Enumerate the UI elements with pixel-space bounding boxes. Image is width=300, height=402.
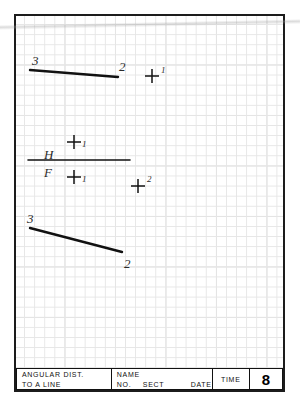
top-view-point-mark-1 (145, 69, 159, 83)
drawing-ink-layer (14, 14, 285, 392)
name-field-label: NAME (117, 370, 212, 379)
projection-point-label-2-2: 2 (147, 175, 152, 184)
title-block-time-cell: TIME (212, 369, 249, 389)
title-block: ANGULAR DIST. TO A LINE NAME NO. SECT DA… (16, 368, 283, 390)
time-field-label: TIME (221, 375, 241, 384)
top-view-point-mark-label-1-0: 1 (161, 66, 166, 75)
worksheet-title-line2: TO A LINE (22, 380, 111, 389)
fold-line-label-f: F (44, 166, 52, 179)
front-view-line-3-2 (30, 228, 122, 252)
student-info-row: NO. SECT DATE (117, 380, 212, 389)
sheet-number: 8 (262, 371, 270, 388)
section-field-label: SECT (143, 380, 191, 389)
projection-point-label-1-0: 1 (82, 140, 87, 149)
projection-point-mark-1-1 (67, 170, 81, 184)
title-block-name-cell: NAME NO. SECT DATE (111, 369, 212, 389)
top-view-line-3-2 (30, 70, 118, 77)
worksheet-title-line1: ANGULAR DIST. (22, 370, 111, 379)
title-block-subject-cell: ANGULAR DIST. TO A LINE (17, 369, 111, 389)
number-field-label: NO. (117, 380, 143, 389)
title-block-sheet-number-cell: 8 (249, 369, 282, 389)
projection-point-mark-1-0 (67, 135, 81, 149)
front-view-point-label-2-1: 2 (124, 257, 131, 270)
date-field-label: DATE (191, 380, 212, 389)
projection-point-label-1-1: 1 (82, 175, 87, 184)
worksheet-page: 321HF11232 ANGULAR DIST. TO A LINE NAME … (0, 0, 300, 402)
front-view-point-label-3-0: 3 (27, 212, 34, 225)
fold-line-label-h: H (44, 148, 53, 161)
projection-point-mark-2-2 (131, 179, 145, 193)
top-view-point-label-3-0: 3 (32, 54, 39, 67)
top-view-point-label-2-1: 2 (119, 60, 126, 73)
